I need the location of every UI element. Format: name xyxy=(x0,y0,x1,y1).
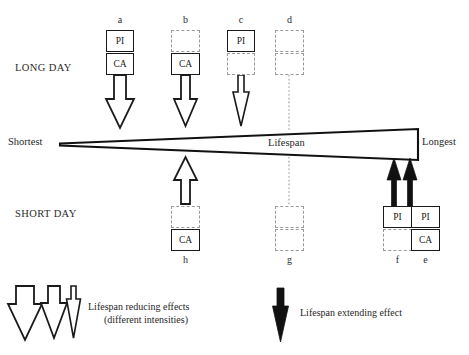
column-g-top-box xyxy=(275,206,304,228)
legend-arrow-reducing-medium xyxy=(41,286,67,338)
column-d-top-box xyxy=(275,30,304,52)
column-a-top-box-label: PI xyxy=(116,36,124,46)
column-letter-c: c xyxy=(227,15,255,25)
column-e-bottom-box: CA xyxy=(411,229,440,251)
column-a-bottom-box-label: CA xyxy=(113,59,126,69)
column-e-top-box: PI xyxy=(411,206,440,228)
axis-label-longest: Longest xyxy=(422,137,456,148)
column-a-bottom-box: CA xyxy=(106,53,134,75)
column-h-bottom-box-label: CA xyxy=(179,235,192,245)
column-b-bottom-box: CA xyxy=(171,53,200,75)
lifespan-wedge xyxy=(60,129,418,160)
arrow-up-column-f xyxy=(387,158,401,206)
legend-reducing-line2: (different intensities) xyxy=(104,313,188,326)
column-letter-h: h xyxy=(171,255,200,265)
legend-reducing-line1: Lifespan reducing effects xyxy=(88,300,189,313)
column-letter-g: g xyxy=(275,255,304,265)
column-f-top-box: PI xyxy=(383,206,412,228)
column-g-bottom-box xyxy=(275,229,304,251)
arrow-down-column-b xyxy=(174,75,197,126)
column-a-top-box: PI xyxy=(106,30,134,52)
column-d-bottom-box xyxy=(275,53,304,75)
arrow-up-column-e xyxy=(403,158,417,206)
column-letter-e: e xyxy=(411,255,440,265)
row-label-long-day: LONG DAY xyxy=(15,63,72,74)
column-letter-b: b xyxy=(171,15,200,25)
column-letter-a: a xyxy=(106,15,134,25)
column-c-bottom-box xyxy=(227,53,255,75)
axis-label-shortest: Shortest xyxy=(8,137,42,148)
column-c-top-box: PI xyxy=(227,30,255,52)
column-e-bottom-box-label: CA xyxy=(419,235,432,245)
column-f-bottom-box xyxy=(383,229,412,251)
lifespan-wedge-label: Lifespan xyxy=(268,138,305,149)
legend-arrow-reducing-wide xyxy=(8,286,42,340)
legend-arrow-extending xyxy=(273,288,289,342)
legend-arrow-reducing-narrow xyxy=(67,286,81,338)
column-h-top-box xyxy=(171,206,200,228)
column-f-top-box-label: PI xyxy=(393,212,401,222)
legend-extending-line1: Lifespan extending effect xyxy=(300,306,402,319)
column-b-bottom-box-label: CA xyxy=(179,59,192,69)
column-letter-f: f xyxy=(383,255,412,265)
arrow-up-column-h xyxy=(174,157,197,204)
column-c-top-box-label: PI xyxy=(237,36,245,46)
column-e-top-box-label: PI xyxy=(421,212,429,222)
row-label-short-day: SHORT DAY xyxy=(15,209,77,220)
arrow-down-column-c xyxy=(233,75,249,126)
lifespan-photoperiod-diagram: LONG DAY SHORT DAY Shortest Longest Life… xyxy=(0,0,469,355)
column-b-top-box xyxy=(171,30,200,52)
arrow-down-column-a xyxy=(106,75,134,128)
column-h-bottom-box: CA xyxy=(171,229,200,251)
column-letter-d: d xyxy=(275,15,304,25)
